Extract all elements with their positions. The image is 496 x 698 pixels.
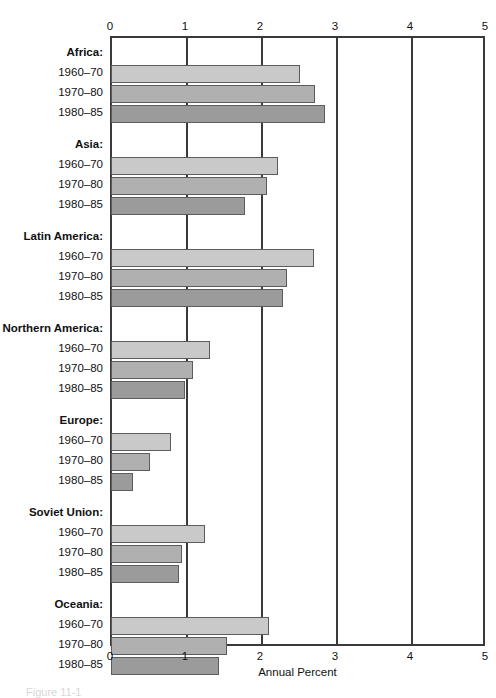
bar-row xyxy=(112,156,483,176)
group-title-row xyxy=(112,320,483,340)
group-label-oceania: Oceania: xyxy=(0,594,103,614)
bar-groups xyxy=(112,38,483,644)
period-label-1970–80: 1970–80 xyxy=(0,82,103,102)
bar-row xyxy=(112,340,483,360)
bar-row xyxy=(112,472,483,492)
bar-row xyxy=(112,196,483,216)
bar-africa-1980–85 xyxy=(111,105,325,123)
period-label-1980–85: 1980–85 xyxy=(0,562,103,582)
figure-caption: Figure 11-1 xyxy=(26,686,81,698)
bar-row xyxy=(112,84,483,104)
bar-row xyxy=(112,564,483,584)
period-label-1970–80: 1970–80 xyxy=(0,358,103,378)
group-label-asia: Asia: xyxy=(0,134,103,154)
period-label-1960–70: 1960–70 xyxy=(0,246,103,266)
x-tick-label-1: 1 xyxy=(175,18,195,34)
bar-latinamerica-1980–85 xyxy=(111,289,283,307)
x-axis-bottom-ticks: 012345 xyxy=(0,648,496,664)
period-label-1960–70: 1960–70 xyxy=(0,614,103,634)
period-label-1980–85: 1980–85 xyxy=(0,102,103,122)
period-label-1960–70: 1960–70 xyxy=(0,154,103,174)
period-label-1970–80: 1970–80 xyxy=(0,542,103,562)
bar-row xyxy=(112,104,483,124)
bar-europe-1960–70 xyxy=(111,433,171,451)
plot-area xyxy=(110,36,485,646)
bar-row xyxy=(112,268,483,288)
period-label-1980–85: 1980–85 xyxy=(0,286,103,306)
bar-africa-1960–70 xyxy=(111,65,300,83)
group-label-africa: Africa: xyxy=(0,42,103,62)
group-title-row xyxy=(112,596,483,616)
group-title-row xyxy=(112,504,483,524)
period-label-1970–80: 1970–80 xyxy=(0,174,103,194)
period-label-1980–85: 1980–85 xyxy=(0,378,103,398)
bar-row xyxy=(112,524,483,544)
period-label-1970–80: 1970–80 xyxy=(0,266,103,286)
x-axis-title: Annual Percent xyxy=(110,666,485,678)
group-label-northernamerica: Northern America: xyxy=(0,318,103,338)
group-label-latinamerica: Latin America: xyxy=(0,226,103,246)
x-tick-label-4: 4 xyxy=(400,648,420,664)
period-label-1980–85: 1980–85 xyxy=(0,470,103,490)
group-title-row xyxy=(112,44,483,64)
bar-asia-1970–80 xyxy=(111,177,267,195)
bar-sovietunion-1980–85 xyxy=(111,565,179,583)
x-tick-label-3: 3 xyxy=(325,648,345,664)
bar-latinamerica-1970–80 xyxy=(111,269,287,287)
bar-africa-1970–80 xyxy=(111,85,315,103)
bar-row xyxy=(112,64,483,84)
x-axis-top-ticks: 012345 xyxy=(0,18,496,34)
bar-row xyxy=(112,432,483,452)
bar-row xyxy=(112,176,483,196)
bar-row xyxy=(112,360,483,380)
bar-europe-1980–85 xyxy=(111,473,133,491)
bar-oceania-1960–70 xyxy=(111,617,269,635)
bar-row xyxy=(112,544,483,564)
group-title-row xyxy=(112,136,483,156)
bar-northernamerica-1970–80 xyxy=(111,361,193,379)
x-tick-label-5: 5 xyxy=(475,18,495,34)
group-title-row xyxy=(112,228,483,248)
group-label-sovietunion: Soviet Union: xyxy=(0,502,103,522)
bar-row xyxy=(112,288,483,308)
bar-europe-1970–80 xyxy=(111,453,150,471)
period-label-1960–70: 1960–70 xyxy=(0,62,103,82)
x-tick-label-2: 2 xyxy=(250,18,270,34)
x-tick-label-5: 5 xyxy=(475,648,495,664)
x-tick-label-4: 4 xyxy=(400,18,420,34)
bar-northernamerica-1980–85 xyxy=(111,381,185,399)
x-tick-label-1: 1 xyxy=(175,648,195,664)
x-tick-label-0: 0 xyxy=(100,18,120,34)
bar-sovietunion-1970–80 xyxy=(111,545,182,563)
x-tick-label-3: 3 xyxy=(325,18,345,34)
bar-northernamerica-1960–70 xyxy=(111,341,210,359)
bar-row xyxy=(112,380,483,400)
period-label-1960–70: 1960–70 xyxy=(0,338,103,358)
x-tick-label-2: 2 xyxy=(250,648,270,664)
bar-row xyxy=(112,248,483,268)
period-label-1960–70: 1960–70 xyxy=(0,522,103,542)
period-label-1960–70: 1960–70 xyxy=(0,430,103,450)
bar-sovietunion-1960–70 xyxy=(111,525,205,543)
bar-row xyxy=(112,452,483,472)
bar-row xyxy=(112,616,483,636)
period-label-1980–85: 1980–85 xyxy=(0,194,103,214)
group-title-row xyxy=(112,412,483,432)
bar-asia-1960–70 xyxy=(111,157,278,175)
group-label-europe: Europe: xyxy=(0,410,103,430)
bar-asia-1980–85 xyxy=(111,197,245,215)
bar-latinamerica-1960–70 xyxy=(111,249,314,267)
x-tick-label-0: 0 xyxy=(100,648,120,664)
period-label-1970–80: 1970–80 xyxy=(0,450,103,470)
